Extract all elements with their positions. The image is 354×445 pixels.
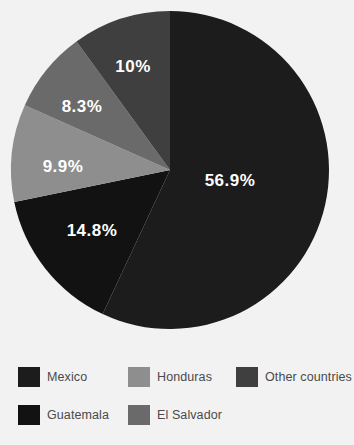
- legend-item-label: El Salvador: [157, 408, 222, 422]
- pie-chart-svg: 56.9%14.8%9.9%8.3%10%: [0, 0, 348, 345]
- legend: MexicoHondurasOther countriesGuatemalaEl…: [18, 358, 336, 434]
- legend-item-label: Other countries: [265, 370, 352, 384]
- legend-item-label: Honduras: [157, 370, 212, 384]
- pie-slice-label: 8.3%: [62, 97, 103, 116]
- legend-item[interactable]: Honduras: [128, 367, 236, 387]
- legend-color-swatch: [18, 367, 40, 387]
- pie-slice-label: 9.9%: [43, 157, 84, 176]
- legend-color-swatch: [18, 405, 40, 425]
- legend-item-label: Guatemala: [47, 408, 109, 422]
- legend-item-label: Mexico: [47, 370, 87, 384]
- legend-item[interactable]: Mexico: [18, 367, 128, 387]
- pie-slice-label: 14.8%: [67, 221, 118, 240]
- pie-slice-label: 56.9%: [205, 171, 256, 190]
- legend-color-swatch: [128, 367, 150, 387]
- legend-item[interactable]: Other countries: [236, 367, 354, 387]
- legend-color-swatch: [128, 405, 150, 425]
- legend-item[interactable]: Guatemala: [18, 405, 128, 425]
- legend-item[interactable]: El Salvador: [128, 405, 236, 425]
- pie-slice-label: 10%: [115, 57, 151, 76]
- pie-chart: 56.9%14.8%9.9%8.3%10%: [0, 0, 348, 345]
- legend-color-swatch: [236, 367, 258, 387]
